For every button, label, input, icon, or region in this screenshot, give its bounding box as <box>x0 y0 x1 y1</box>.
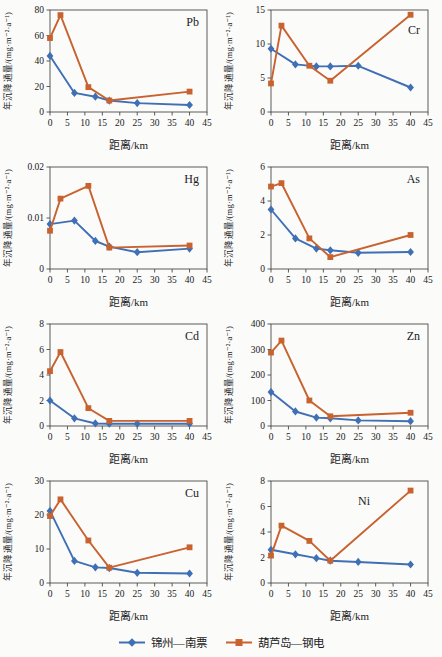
svg-text:200: 200 <box>251 370 266 380</box>
svg-text:年沉降通量/(mg·m⁻²·a⁻¹): 年沉降通量/(mg·m⁻²·a⁻¹) <box>223 12 234 110</box>
svg-text:Cu: Cu <box>185 486 199 500</box>
diamond-marker-icon <box>118 635 146 650</box>
svg-text:30: 30 <box>150 432 160 442</box>
svg-text:Cr: Cr <box>408 23 420 37</box>
svg-text:30: 30 <box>371 589 381 599</box>
svg-text:15: 15 <box>319 432 329 442</box>
legend-label-huludao-gangdian: 葫芦岛—钢电 <box>258 634 325 650</box>
svg-text:25: 25 <box>132 589 142 599</box>
svg-text:35: 35 <box>167 432 177 442</box>
svg-text:10: 10 <box>80 275 90 285</box>
svg-text:20: 20 <box>336 589 346 599</box>
svg-text:20: 20 <box>35 510 45 520</box>
svg-text:10: 10 <box>256 39 266 49</box>
chart-pb-svg: 051015202530354045020406080Pb距离/km年沉降通量/… <box>0 0 221 157</box>
svg-text:40: 40 <box>185 589 195 599</box>
svg-text:35: 35 <box>388 589 398 599</box>
svg-text:Hg: Hg <box>184 172 199 186</box>
subplot-as: 0510152025303540450246As距离/km年沉降通量/(mg·m… <box>221 157 442 314</box>
svg-text:15: 15 <box>98 275 108 285</box>
svg-text:30: 30 <box>150 589 160 599</box>
svg-text:年沉降通量/(mg·m⁻²·a⁻¹): 年沉降通量/(mg·m⁻²·a⁻¹) <box>2 483 13 581</box>
svg-text:0: 0 <box>39 578 44 588</box>
svg-text:年沉降通量/(mg·m⁻²·a⁻¹): 年沉降通量/(mg·m⁻²·a⁻¹) <box>223 483 234 581</box>
svg-text:40: 40 <box>185 432 195 442</box>
svg-text:20: 20 <box>115 118 125 128</box>
svg-text:5: 5 <box>65 275 70 285</box>
svg-text:10: 10 <box>80 432 90 442</box>
svg-text:距离/km: 距离/km <box>109 452 149 465</box>
svg-text:距离/km: 距离/km <box>109 609 149 622</box>
svg-text:0: 0 <box>48 589 53 599</box>
svg-text:5: 5 <box>286 118 291 128</box>
svg-text:距离/km: 距离/km <box>330 452 370 465</box>
svg-text:25: 25 <box>353 589 363 599</box>
svg-text:20: 20 <box>115 589 125 599</box>
svg-text:年沉降通量/(mg·m⁻²·a⁻¹): 年沉降通量/(mg·m⁻²·a⁻¹) <box>2 12 13 110</box>
svg-text:6: 6 <box>260 162 265 172</box>
chart-cu-svg: 0510152025303540450102030Cu距离/km年沉降通量/(m… <box>0 471 221 628</box>
svg-text:15: 15 <box>98 589 108 599</box>
svg-text:5: 5 <box>65 432 70 442</box>
svg-text:2: 2 <box>260 553 265 563</box>
svg-text:35: 35 <box>167 118 177 128</box>
svg-text:Zn: Zn <box>407 329 420 343</box>
chart-ni-svg: 05101520253035404502468Ni距离/km年沉降通量/(mg·… <box>221 471 442 628</box>
svg-text:25: 25 <box>132 432 142 442</box>
svg-text:60: 60 <box>35 31 45 41</box>
legend-item-jinzhou-nanpiao: 锦州—南票 <box>118 634 207 650</box>
svg-text:45: 45 <box>202 118 212 128</box>
svg-text:40: 40 <box>406 589 416 599</box>
svg-text:0.02: 0.02 <box>27 162 44 172</box>
svg-text:4: 4 <box>260 527 265 537</box>
svg-text:0: 0 <box>269 432 274 442</box>
subplot-cr: 051015202530354045051015Cr距离/km年沉降通量/(mg… <box>221 0 442 157</box>
svg-text:Ni: Ni <box>358 494 371 508</box>
svg-text:400: 400 <box>251 319 266 329</box>
legend-item-huludao-gangdian: 葫芦岛—钢电 <box>225 634 325 650</box>
svg-text:45: 45 <box>202 589 212 599</box>
svg-text:10: 10 <box>301 432 311 442</box>
svg-text:30: 30 <box>371 118 381 128</box>
svg-text:15: 15 <box>319 275 329 285</box>
chart-grid: 051015202530354045020406080Pb距离/km年沉降通量/… <box>0 0 442 628</box>
svg-text:0: 0 <box>48 275 53 285</box>
svg-text:35: 35 <box>388 118 398 128</box>
svg-text:20: 20 <box>336 432 346 442</box>
svg-text:6: 6 <box>260 502 265 512</box>
svg-text:40: 40 <box>406 432 416 442</box>
svg-text:25: 25 <box>353 432 363 442</box>
svg-text:距离/km: 距离/km <box>109 138 149 151</box>
chart-hg-svg: 05101520253035404500.010.02Hg距离/km年沉降通量/… <box>0 157 221 314</box>
svg-text:8: 8 <box>39 319 44 329</box>
svg-text:5: 5 <box>260 73 265 83</box>
svg-text:5: 5 <box>65 118 70 128</box>
svg-text:10: 10 <box>301 118 311 128</box>
svg-text:40: 40 <box>406 275 416 285</box>
svg-text:25: 25 <box>132 118 142 128</box>
svg-text:10: 10 <box>80 589 90 599</box>
svg-text:0: 0 <box>260 264 265 274</box>
svg-text:0: 0 <box>260 107 265 117</box>
svg-text:40: 40 <box>406 118 416 128</box>
svg-text:30: 30 <box>150 118 160 128</box>
svg-text:35: 35 <box>167 589 177 599</box>
svg-text:300: 300 <box>251 345 266 355</box>
svg-text:35: 35 <box>388 432 398 442</box>
subplot-hg: 05101520253035404500.010.02Hg距离/km年沉降通量/… <box>0 157 221 314</box>
svg-text:10: 10 <box>301 589 311 599</box>
chart-as-svg: 0510152025303540450246As距离/km年沉降通量/(mg·m… <box>221 157 442 314</box>
chart-cr-svg: 051015202530354045051015Cr距离/km年沉降通量/(mg… <box>221 0 442 157</box>
svg-text:15: 15 <box>256 5 266 15</box>
svg-text:10: 10 <box>80 118 90 128</box>
svg-text:45: 45 <box>423 118 433 128</box>
svg-text:年沉降通量/(mg·m⁻²·a⁻¹): 年沉降通量/(mg·m⁻²·a⁻¹) <box>223 326 234 424</box>
svg-text:5: 5 <box>65 589 70 599</box>
svg-text:2: 2 <box>260 230 265 240</box>
svg-text:距离/km: 距离/km <box>330 138 370 151</box>
svg-text:40: 40 <box>185 118 195 128</box>
svg-text:距离/km: 距离/km <box>109 295 149 308</box>
svg-text:15: 15 <box>319 589 329 599</box>
subplot-zn: 0510152025303540450100200300400Zn距离/km年沉… <box>221 314 442 471</box>
svg-text:40: 40 <box>185 275 195 285</box>
